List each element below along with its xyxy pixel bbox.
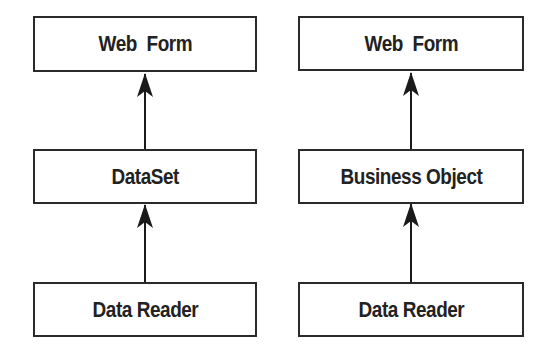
right-webform-box: Web Form [298,16,524,71]
right-businessobject-label: Business Object [340,164,482,190]
right-datareader-label: Data Reader [358,297,464,323]
left-dataset-box: DataSet [33,149,257,204]
left-webform-label: Web Form [98,31,192,57]
right-businessobject-box: Business Object [298,149,524,204]
right-webform-label: Web Form [364,31,458,57]
left-datareader-box: Data Reader [33,282,257,337]
left-datareader-label: Data Reader [92,297,198,323]
left-dataset-label: DataSet [111,164,178,190]
left-webform-box: Web Form [33,16,257,72]
right-datareader-box: Data Reader [298,282,524,337]
